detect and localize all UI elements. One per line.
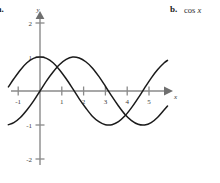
x-tick-label--1: -1 — [15, 98, 21, 106]
figure-container: a. b. cos x -1 1 2 — [0, 0, 220, 183]
x-tick-label-5: 5 — [147, 98, 151, 106]
x-tick-label-3: 3 — [104, 98, 108, 106]
trig-graph-plot: -1 1 2 3 4 5 2 1 -1 -2 y x — [0, 0, 220, 183]
y-tick-label-2: 2 — [29, 20, 33, 28]
x-axis-label: x — [173, 93, 178, 101]
x-axis-arrowhead — [164, 87, 173, 96]
x-tick-label-1: 1 — [60, 98, 64, 106]
x-tick-label-4: 4 — [125, 98, 129, 106]
y-tick-label--1: -1 — [26, 122, 32, 130]
y-tick-label--2: -2 — [26, 156, 32, 164]
